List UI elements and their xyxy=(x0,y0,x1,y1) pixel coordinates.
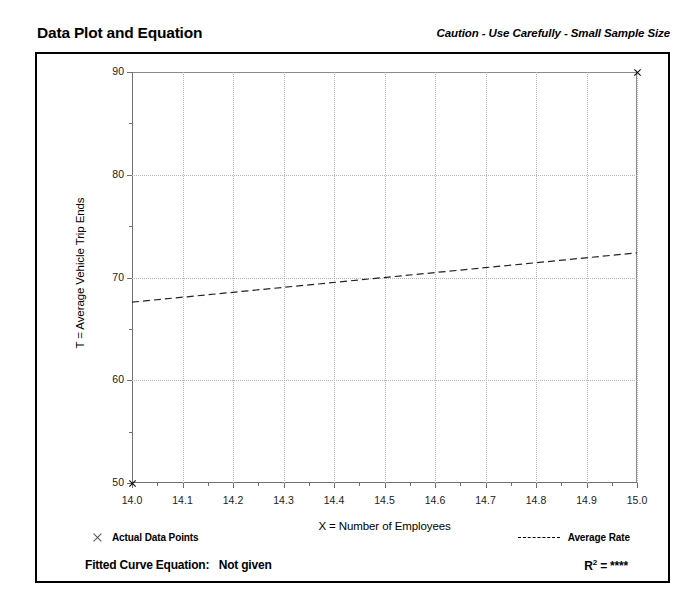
x-axis-tick-label: 14.8 xyxy=(513,494,559,506)
chart-page: Data Plot and Equation Caution - Use Car… xyxy=(0,0,700,604)
vertical-gridline xyxy=(637,72,638,483)
x-axis-tick-label: 14.9 xyxy=(564,494,610,506)
x-axis-minor-tick xyxy=(561,483,562,486)
r-squared-symbol: R xyxy=(584,559,592,573)
legend-label-data-points: Actual Data Points xyxy=(112,532,199,543)
x-axis-tick-label: 14.2 xyxy=(210,494,256,506)
x-marker-icon xyxy=(92,532,103,543)
x-axis-minor-tick xyxy=(157,483,158,486)
x-axis-tick xyxy=(284,483,285,488)
page-title: Data Plot and Equation xyxy=(37,24,202,42)
x-axis-minor-tick xyxy=(410,483,411,486)
legend-entry-average-rate: Average Rate xyxy=(518,532,630,543)
chart-legend: Actual Data Points Average Rate xyxy=(37,532,668,552)
x-axis-tick-label: 14.6 xyxy=(412,494,458,506)
x-axis-tick xyxy=(637,483,638,488)
x-axis-tick-label: 15.0 xyxy=(614,494,660,506)
legend-entry-data-points: Actual Data Points xyxy=(92,532,199,543)
x-axis-tick-label: 14.0 xyxy=(109,494,155,506)
x-axis-tick-label: 14.7 xyxy=(463,494,509,506)
trend-line-path xyxy=(132,253,637,302)
x-axis-tick xyxy=(183,483,184,488)
fitted-curve-equation: Fitted Curve Equation: Not given xyxy=(85,558,272,572)
x-axis-tick-label: 14.3 xyxy=(261,494,307,506)
dashed-line-icon xyxy=(518,537,560,538)
x-axis-tick xyxy=(486,483,487,488)
y-axis-tick-label: 90 xyxy=(98,65,124,77)
y-axis-tick-label: 50 xyxy=(98,476,124,488)
plot-area: 14.014.114.214.314.414.514.614.714.814.9… xyxy=(132,72,637,483)
x-axis-title: X = Number of Employees xyxy=(132,520,637,532)
legend-label-average-rate: Average Rate xyxy=(568,532,630,543)
equation-row: Fitted Curve Equation: Not given R2 = **… xyxy=(37,558,668,578)
r-squared-equals: = xyxy=(600,559,607,573)
chart-area: T = Average Vehicle Trip Ends 14.014.114… xyxy=(37,54,668,581)
x-axis-minor-tick xyxy=(612,483,613,486)
data-point-marker xyxy=(633,68,642,77)
x-axis-tick-label: 14.4 xyxy=(311,494,357,506)
x-axis-tick-label: 14.1 xyxy=(160,494,206,506)
r-squared-value: R2 = **** xyxy=(584,558,628,573)
x-axis-tick-label: 14.5 xyxy=(362,494,408,506)
y-axis-tick-label: 70 xyxy=(98,271,124,283)
x-axis-minor-tick xyxy=(309,483,310,486)
data-point-marker xyxy=(128,479,137,488)
header: Data Plot and Equation Caution - Use Car… xyxy=(35,24,670,46)
y-axis-tick-label: 60 xyxy=(98,373,124,385)
r-squared-stars: **** xyxy=(610,559,628,573)
fitted-curve-equation-value: Not given xyxy=(219,558,272,572)
x-axis-tick xyxy=(385,483,386,488)
y-axis-tick-label: 80 xyxy=(98,168,124,180)
x-axis-tick xyxy=(334,483,335,488)
x-axis-minor-tick xyxy=(258,483,259,486)
y-axis-title: T = Average Vehicle Trip Ends xyxy=(74,123,86,423)
fitted-curve-equation-label: Fitted Curve Equation: xyxy=(85,558,209,572)
x-axis-tick xyxy=(536,483,537,488)
r-squared-exponent: 2 xyxy=(593,558,597,567)
x-axis-tick xyxy=(587,483,588,488)
x-axis-minor-tick xyxy=(208,483,209,486)
x-axis-minor-tick xyxy=(460,483,461,486)
x-axis-tick xyxy=(435,483,436,488)
caution-note: Caution - Use Carefully - Small Sample S… xyxy=(437,27,670,39)
x-axis-minor-tick xyxy=(359,483,360,486)
x-axis-tick xyxy=(233,483,234,488)
average-rate-trendline xyxy=(132,72,637,483)
x-axis-minor-tick xyxy=(511,483,512,486)
chart-frame: T = Average Vehicle Trip Ends 14.014.114… xyxy=(35,52,670,583)
